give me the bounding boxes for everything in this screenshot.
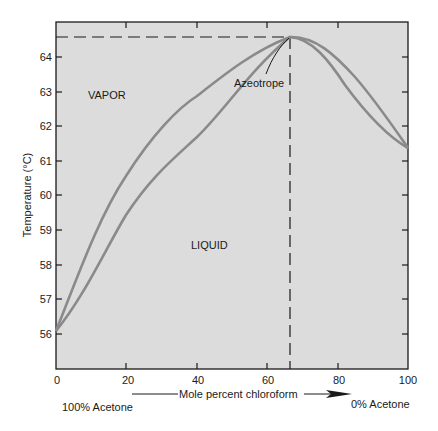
svg-text:56: 56 — [40, 328, 52, 340]
svg-text:63: 63 — [40, 86, 52, 98]
left-composition-note: 100% Acetone — [62, 401, 133, 413]
azeotrope-label: Azeotrope — [234, 77, 284, 89]
svg-text:61: 61 — [40, 155, 52, 167]
svg-text:60: 60 — [40, 189, 52, 201]
phase-diagram-chart: 64 63 62 61 60 59 58 57 56 0 20 40 60 80… — [0, 0, 438, 431]
svg-text:57: 57 — [40, 293, 52, 305]
svg-text:20: 20 — [122, 374, 134, 386]
vapor-region-label: VAPOR — [88, 89, 126, 101]
svg-text:64: 64 — [40, 51, 52, 63]
svg-text:40: 40 — [192, 374, 204, 386]
x-axis-title: Mole percent chloroform — [179, 388, 298, 400]
liquid-region-label: LIQUID — [191, 239, 228, 251]
svg-text:59: 59 — [40, 224, 52, 236]
x-tick-labels: 0 20 40 60 80 100 — [54, 374, 417, 386]
svg-text:80: 80 — [333, 374, 345, 386]
svg-text:58: 58 — [40, 259, 52, 271]
y-tick-labels: 64 63 62 61 60 59 58 57 56 — [40, 51, 52, 340]
plot-area — [56, 22, 408, 369]
svg-text:100: 100 — [399, 374, 417, 386]
right-composition-note: 0% Acetone — [351, 398, 410, 410]
y-axis-title: Temperature (°C) — [21, 153, 33, 237]
svg-text:60: 60 — [262, 374, 274, 386]
svg-text:62: 62 — [40, 120, 52, 132]
svg-text:0: 0 — [54, 374, 60, 386]
